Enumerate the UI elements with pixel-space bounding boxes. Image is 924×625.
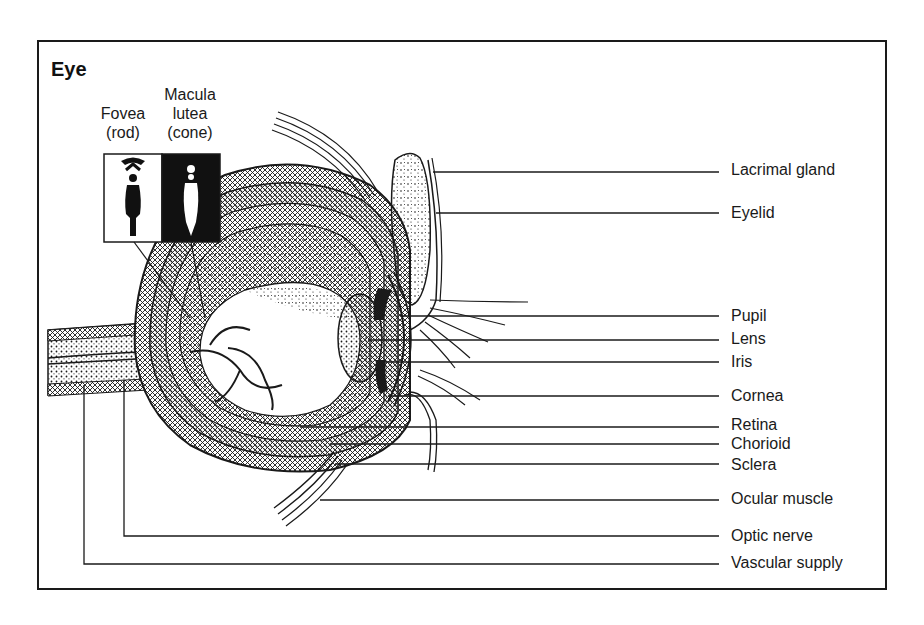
label-optic-nerve: Optic nerve [731,527,813,545]
label-lens: Lens [731,330,766,348]
label-iris: Iris [731,353,752,371]
label-sclera: Sclera [731,456,776,474]
label-vascular-supply: Vascular supply [731,554,843,572]
label-pupil: Pupil [731,307,767,325]
label-ocular-muscle: Ocular muscle [731,490,833,508]
label-eyelid: Eyelid [731,204,775,222]
label-cornea: Cornea [731,387,783,405]
label-lacrimal-gland: Lacrimal gland [731,161,835,179]
lacrimal-gland-and-eyelid [392,153,529,472]
label-retina: Retina [731,416,777,434]
label-chorioid: Chorioid [731,435,791,453]
